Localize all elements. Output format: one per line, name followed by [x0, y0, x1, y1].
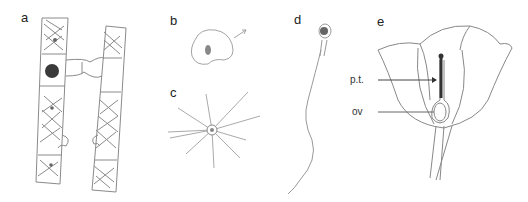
panel-label-a: a — [21, 10, 28, 25]
diagram-canvas — [0, 0, 528, 202]
panel-b-drawing — [191, 30, 246, 65]
sperm-head — [320, 27, 328, 35]
nucleus-dark — [45, 64, 59, 78]
panel-label-b: b — [170, 13, 177, 28]
cell-b-nucleus — [205, 45, 211, 55]
panel-e-drawing — [378, 26, 512, 180]
annotation-pt: p.t. — [350, 74, 364, 85]
panel-label-d: d — [294, 12, 301, 27]
panel-d-drawing — [288, 24, 331, 194]
annotation-ov: ov — [352, 106, 363, 117]
panel-label-e: e — [377, 14, 384, 29]
panel-label-c: c — [170, 85, 177, 100]
